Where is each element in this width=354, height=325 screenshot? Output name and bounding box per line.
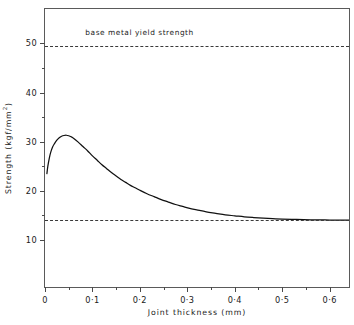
- y-tick-30: [40, 142, 45, 143]
- plot-frame: base metal yield strength 102030405000·1…: [44, 8, 350, 288]
- y-axis-title-tail: ): [4, 102, 13, 106]
- x-minor-tick-0.25: [164, 287, 165, 290]
- y-minor-tick-15: [42, 215, 45, 216]
- x-tick-6: [330, 287, 331, 292]
- joint-strength-curve: [45, 9, 349, 287]
- x-axis-title: Joint thickness (mm): [44, 308, 350, 317]
- plot-area: base metal yield strength: [45, 9, 349, 287]
- y-tick-label-10: 10: [26, 235, 37, 245]
- y-minor-tick-35: [42, 117, 45, 118]
- x-tick-label-2: 0·2: [133, 295, 147, 305]
- y-tick-20: [40, 191, 45, 192]
- y-tick-label-40: 40: [26, 88, 37, 98]
- x-tick-0: [45, 287, 46, 292]
- y-axis-title: Strength (kgf/mm2): [2, 102, 13, 194]
- x-tick-3: [187, 287, 188, 292]
- y-tick-label-30: 30: [26, 137, 37, 147]
- x-minor-tick-0.35: [211, 287, 212, 290]
- y-minor-tick-45: [42, 68, 45, 69]
- x-tick-label-1: 0·1: [85, 295, 99, 305]
- y-tick-label-50: 50: [26, 38, 37, 48]
- base-metal-yield-strength-line: [45, 46, 349, 47]
- x-tick-label-5: 0·5: [275, 295, 289, 305]
- y-tick-50: [40, 43, 45, 44]
- x-tick-label-4: 0·4: [228, 295, 242, 305]
- x-tick-label-6: 0·6: [323, 295, 337, 305]
- y-tick-label-20: 20: [26, 186, 37, 196]
- y-tick-10: [40, 240, 45, 241]
- x-tick-2: [140, 287, 141, 292]
- x-tick-1: [92, 287, 93, 292]
- annotation-base-metal-yield-strength: base metal yield strength: [85, 28, 194, 37]
- x-tick-label-0: 0: [42, 295, 48, 305]
- chart-figure: base metal yield strength 102030405000·1…: [0, 0, 354, 325]
- x-tick-5: [282, 287, 283, 292]
- filler-metal-strength-line: [45, 220, 349, 221]
- x-minor-tick-0.45: [258, 287, 259, 290]
- y-axis-title-text: Strength (kgf/mm: [4, 110, 13, 194]
- x-minor-tick-0.05: [69, 287, 70, 290]
- x-tick-4: [235, 287, 236, 292]
- x-minor-tick-0.55: [306, 287, 307, 290]
- y-tick-40: [40, 93, 45, 94]
- y-minor-tick-25: [42, 166, 45, 167]
- y-axis-title-exponent: 2: [2, 106, 8, 110]
- x-tick-label-3: 0·3: [180, 295, 194, 305]
- x-minor-tick-0.15: [116, 287, 117, 290]
